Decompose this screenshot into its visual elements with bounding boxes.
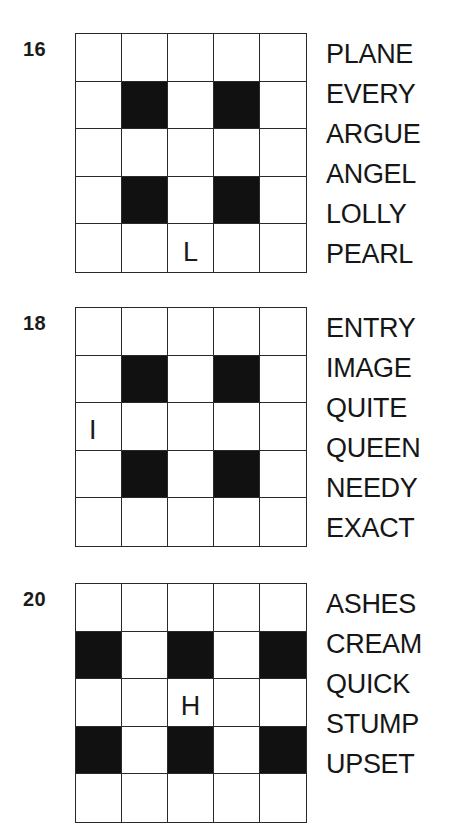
grid-cell[interactable] [260, 129, 306, 177]
grid-cell[interactable]: I [76, 403, 122, 451]
grid-cell[interactable] [122, 727, 168, 775]
grid-cell[interactable] [260, 224, 306, 272]
word-list: ENTRYIMAGEQUITEQUEENNEEDYEXACT [326, 308, 421, 548]
black-square [168, 632, 214, 680]
black-square [214, 451, 260, 499]
black-square [122, 177, 168, 225]
grid-cell[interactable] [260, 498, 306, 546]
grid-cell[interactable] [168, 498, 214, 546]
black-square [76, 727, 122, 775]
grid-cell[interactable] [260, 403, 306, 451]
grid-cell[interactable] [260, 82, 306, 130]
grid-cell[interactable] [76, 679, 122, 727]
black-square [214, 177, 260, 225]
grid-cell[interactable] [76, 224, 122, 272]
word-list-item: QUITE [326, 388, 421, 428]
grid-cell[interactable] [260, 774, 306, 822]
crossword-grid: H [75, 583, 307, 823]
black-square [76, 632, 122, 680]
grid-cell[interactable] [260, 34, 306, 82]
grid-cell[interactable] [76, 308, 122, 356]
word-list: ASHESCREAMQUICKSTUMPUPSET [326, 584, 422, 784]
word-list-item: STUMP [326, 704, 422, 744]
grid-cell[interactable] [122, 308, 168, 356]
grid-cell[interactable] [168, 129, 214, 177]
grid-cell[interactable] [260, 177, 306, 225]
grid-cell[interactable] [214, 498, 260, 546]
black-square [260, 632, 306, 680]
black-square [122, 451, 168, 499]
grid-cell[interactable] [214, 308, 260, 356]
word-list-item: IMAGE [326, 348, 421, 388]
grid-cell[interactable] [214, 679, 260, 727]
black-square [214, 82, 260, 130]
word-list-item: LOLLY [326, 194, 421, 234]
grid-cell[interactable] [168, 177, 214, 225]
grid-cell[interactable] [214, 34, 260, 82]
grid-cell[interactable]: L [168, 224, 214, 272]
grid-cell[interactable] [260, 679, 306, 727]
grid-cell[interactable] [214, 774, 260, 822]
grid-cell[interactable] [76, 129, 122, 177]
grid-cell[interactable] [168, 34, 214, 82]
word-list-item: CREAM [326, 624, 422, 664]
grid-cell[interactable] [76, 177, 122, 225]
grid-cell[interactable] [168, 774, 214, 822]
grid-cell[interactable] [168, 451, 214, 499]
grid-cell[interactable] [214, 584, 260, 632]
black-square [168, 727, 214, 775]
grid-cell[interactable] [122, 498, 168, 546]
word-list-item: NEEDY [326, 468, 421, 508]
grid-cell[interactable] [76, 34, 122, 82]
grid-cell[interactable] [76, 498, 122, 546]
grid-cell[interactable] [260, 356, 306, 404]
black-square [260, 727, 306, 775]
grid-cell[interactable] [76, 82, 122, 130]
given-letter: I [89, 417, 97, 444]
grid-cell[interactable] [260, 584, 306, 632]
grid-cell[interactable] [214, 224, 260, 272]
grid-cell[interactable] [122, 403, 168, 451]
word-list-item: QUEEN [326, 428, 421, 468]
word-list-item: EXACT [326, 508, 421, 548]
grid-cell[interactable] [76, 451, 122, 499]
grid-cell[interactable] [122, 224, 168, 272]
grid-cell[interactable] [260, 308, 306, 356]
given-letter: H [181, 693, 201, 720]
grid-cell[interactable] [76, 356, 122, 404]
word-list-item: EVERY [326, 74, 421, 114]
grid-cell[interactable] [168, 82, 214, 130]
grid-cell[interactable] [76, 584, 122, 632]
grid-cell[interactable] [122, 34, 168, 82]
word-list-item: ENTRY [326, 308, 421, 348]
grid-cell[interactable] [168, 584, 214, 632]
word-list-item: QUICK [326, 664, 422, 704]
word-list-item: ASHES [326, 584, 422, 624]
grid-cell[interactable] [168, 356, 214, 404]
puzzle-number: 20 [23, 587, 46, 611]
puzzle-number: 16 [23, 37, 46, 61]
crossword-grid: I [75, 307, 307, 547]
grid-cell[interactable]: H [168, 679, 214, 727]
puzzle-number: 18 [23, 311, 46, 335]
grid-cell[interactable] [76, 774, 122, 822]
word-list-item: UPSET [326, 744, 422, 784]
grid-cell[interactable] [122, 584, 168, 632]
grid-cell[interactable] [214, 632, 260, 680]
word-list-item: ARGUE [326, 114, 421, 154]
word-list-item: PLANE [326, 34, 421, 74]
word-list-item: PEARL [326, 234, 421, 274]
grid-cell[interactable] [122, 774, 168, 822]
grid-cell[interactable] [260, 451, 306, 499]
given-letter: L [183, 239, 198, 266]
grid-cell[interactable] [214, 403, 260, 451]
grid-cell[interactable] [168, 308, 214, 356]
black-square [214, 356, 260, 404]
grid-cell[interactable] [168, 403, 214, 451]
word-list: PLANEEVERYARGUEANGELLOLLYPEARL [326, 34, 421, 274]
grid-cell[interactable] [122, 679, 168, 727]
grid-cell[interactable] [214, 129, 260, 177]
grid-cell[interactable] [122, 129, 168, 177]
grid-cell[interactable] [122, 632, 168, 680]
grid-cell[interactable] [214, 727, 260, 775]
